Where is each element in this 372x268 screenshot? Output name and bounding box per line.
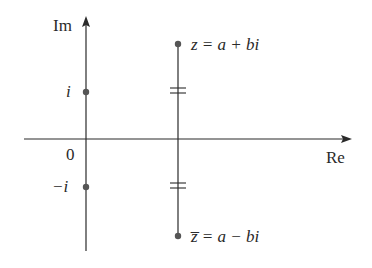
neg-i-label: −i <box>52 177 68 196</box>
point-zbar <box>175 233 181 239</box>
z-label: z = a + bi <box>190 35 260 54</box>
imaginary-axis <box>82 16 90 251</box>
i-label: i <box>66 82 71 101</box>
imaginary-axis-label: Im <box>53 16 72 35</box>
point-neg-i <box>83 184 89 190</box>
point-z <box>175 41 181 47</box>
real-axis-label: Re <box>326 148 345 167</box>
origin-label: 0 <box>66 145 75 164</box>
real-axis <box>24 135 352 143</box>
complex-plane-diagram: Im Re 0 i −i z = a + bi z̅ = a − bi <box>0 0 372 268</box>
point-i <box>83 89 89 95</box>
zbar-label: z̅ = a − bi <box>190 227 260 246</box>
